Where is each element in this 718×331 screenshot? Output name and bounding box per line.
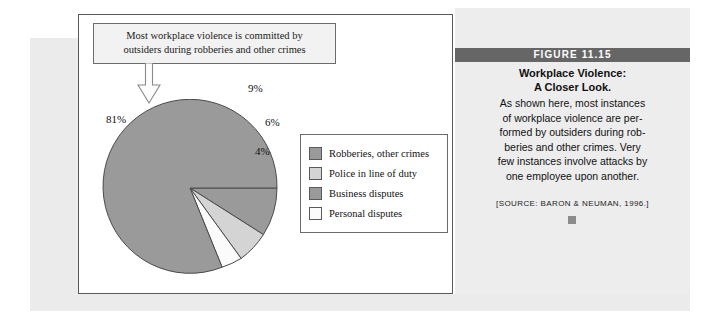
pie-chart: [101, 99, 279, 277]
legend-swatch-personal: [309, 207, 322, 220]
pie-label-robberies: 81%: [106, 113, 126, 125]
figure-number-label: FIGURE 11.15: [455, 48, 690, 62]
scanned-page: Most workplace violence is committed by …: [0, 0, 718, 331]
legend-item-personal: Personal disputes: [309, 203, 440, 223]
chart-legend: Robberies, other crimes Police in line o…: [300, 134, 448, 233]
legend-label-business: Business disputes: [329, 188, 403, 199]
pie-label-personal: 4%: [255, 145, 270, 157]
legend-label-personal: Personal disputes: [329, 208, 402, 219]
callout-line-2: outsiders during robberies and other cri…: [102, 43, 327, 57]
caption-source: [SOURCE: BARON & NEUMAN, 1996.]: [465, 199, 680, 208]
legend-item-robberies: Robberies, other crimes: [309, 143, 440, 163]
legend-item-business: Business disputes: [309, 183, 440, 203]
caption-title-line-1: Workplace Violence:: [463, 66, 682, 80]
figure-panel: Most workplace violence is committed by …: [78, 14, 453, 294]
caption-body-line-4: beries and other crimes. Very: [465, 140, 680, 155]
legend-item-police: Police in line of duty: [309, 163, 440, 183]
callout-annotation: Most workplace violence is committed by …: [93, 23, 336, 64]
pie-label-business: 6%: [265, 116, 280, 128]
caption-body-line-6: one employee upon another.: [465, 169, 680, 184]
caption-body-line-3: formed by outsiders during rob-: [465, 125, 680, 140]
caption-title: Workplace Violence: A Closer Look.: [463, 66, 682, 94]
figure-number-bar: FIGURE 11.15: [455, 48, 690, 62]
end-of-caption-marker: [568, 216, 576, 224]
legend-swatch-police: [309, 167, 322, 180]
figure-caption-column: FIGURE 11.15 Workplace Violence: A Close…: [455, 8, 690, 303]
legend-label-police: Police in line of duty: [329, 168, 417, 179]
pie-label-police: 9%: [248, 82, 263, 94]
legend-label-robberies: Robberies, other crimes: [329, 148, 429, 159]
caption-body: As shown here, most instances of workpla…: [465, 96, 680, 183]
caption-body-line-1: As shown here, most instances: [465, 96, 680, 111]
legend-swatch-robberies: [309, 147, 322, 160]
pie-chart-svg: [101, 99, 279, 277]
caption-body-line-5: few instances involve attacks by: [465, 154, 680, 169]
callout-line-1: Most workplace violence is committed by: [102, 29, 327, 43]
caption-body-line-2: of workplace violence are per-: [465, 111, 680, 126]
legend-swatch-business: [309, 187, 322, 200]
caption-title-line-2: A Closer Look.: [463, 80, 682, 94]
